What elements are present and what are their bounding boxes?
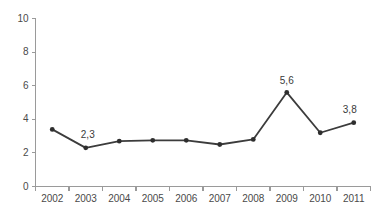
y-tick-label: 0 xyxy=(23,181,29,192)
x-tick-label: 2008 xyxy=(242,193,265,204)
line-chart: 0246810200220032004200520062007200820092… xyxy=(0,0,380,218)
y-tick-label: 4 xyxy=(23,113,29,124)
x-tick-label: 2005 xyxy=(142,193,165,204)
x-tick-label: 2007 xyxy=(209,193,232,204)
data-point-marker xyxy=(251,137,256,142)
data-point-label: 2,3 xyxy=(81,129,95,140)
x-tick-label: 2006 xyxy=(175,193,198,204)
data-point-label: 3,8 xyxy=(343,104,357,115)
y-tick-label: 6 xyxy=(23,80,29,91)
data-point-marker xyxy=(83,145,88,150)
data-point-label: 5,6 xyxy=(280,75,294,86)
y-tick-label: 8 xyxy=(23,46,29,57)
x-tick-label: 2011 xyxy=(343,193,365,204)
y-tick-label: 10 xyxy=(17,13,29,24)
data-point-marker xyxy=(150,138,155,143)
data-point-marker xyxy=(117,139,122,144)
data-point-marker xyxy=(184,138,189,143)
x-tick-label: 2009 xyxy=(276,193,299,204)
data-point-marker xyxy=(50,127,55,132)
data-point-marker xyxy=(351,120,356,125)
y-tick-label: 2 xyxy=(23,147,29,158)
data-point-marker xyxy=(318,130,323,135)
chart-canvas: 0246810200220032004200520062007200820092… xyxy=(0,0,380,218)
data-point-marker xyxy=(217,142,222,147)
x-tick-label: 2004 xyxy=(108,193,131,204)
x-tick-label: 2003 xyxy=(75,193,98,204)
x-tick-label: 2010 xyxy=(309,193,332,204)
data-point-marker xyxy=(284,90,289,95)
series-line xyxy=(52,92,354,147)
x-tick-label: 2002 xyxy=(41,193,64,204)
